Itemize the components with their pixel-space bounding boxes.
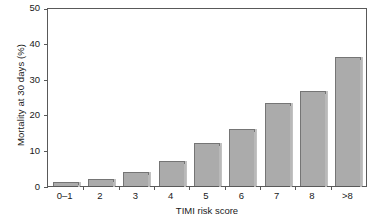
bar: [194, 143, 220, 186]
x-axis-tick-labels: 0–12345678>8: [47, 190, 367, 204]
y-tick-mark: [44, 80, 48, 81]
bar: [88, 179, 114, 186]
x-tick-label: 5: [203, 190, 208, 202]
y-tick-label: 30: [18, 75, 40, 85]
bar-shadow: [254, 132, 256, 187]
bar-shadow: [290, 106, 292, 187]
bar-shadow: [148, 175, 150, 187]
y-tick-mark: [44, 151, 48, 152]
y-tick-mark: [44, 187, 48, 188]
bar-shadow: [360, 60, 362, 187]
bar: [265, 103, 291, 186]
x-tick-label: 8: [309, 190, 314, 202]
bar: [53, 182, 79, 186]
x-tick-label: 2: [97, 190, 102, 202]
bar-series: [48, 9, 366, 186]
bar: [159, 161, 185, 186]
x-tick-label: 6: [239, 190, 244, 202]
y-tick-label: 0: [18, 182, 40, 192]
x-tick-label: 7: [274, 190, 279, 202]
bar: [300, 91, 326, 186]
plot-area: [47, 8, 367, 187]
y-tick-label: 10: [18, 146, 40, 156]
y-tick-label: 20: [18, 110, 40, 120]
bar-shadow: [113, 182, 115, 187]
x-tick-label: >8: [342, 190, 353, 202]
chart-figure: Mortality at 30 days (%) 01020304050 0–1…: [0, 0, 384, 224]
y-axis-tick-labels: 01020304050: [18, 0, 40, 224]
x-tick-label: 4: [168, 190, 173, 202]
bar: [123, 172, 149, 186]
x-tick-label: 0–1: [57, 190, 73, 202]
y-tick-label: 40: [18, 39, 40, 49]
bar-shadow: [219, 146, 221, 187]
y-tick-mark: [44, 9, 48, 10]
bar-shadow: [78, 185, 80, 187]
bar-shadow: [184, 164, 186, 187]
bar: [229, 129, 255, 186]
x-axis-title: TIMI risk score: [47, 205, 367, 217]
x-tick-label: 3: [133, 190, 138, 202]
y-tick-mark: [44, 44, 48, 45]
bar-shadow: [325, 94, 327, 187]
y-tick-label: 50: [18, 3, 40, 13]
bar: [335, 57, 361, 186]
y-tick-mark: [44, 115, 48, 116]
